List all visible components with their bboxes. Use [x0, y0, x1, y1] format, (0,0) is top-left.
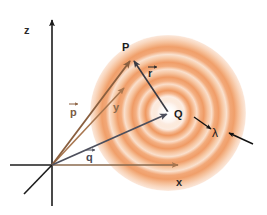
p-vector-label: p	[70, 106, 77, 118]
y-axis-label: y	[113, 101, 120, 113]
point-markers	[166, 111, 169, 114]
charge-marker-Q	[166, 111, 169, 114]
z-axis-label: z	[24, 24, 30, 36]
diagram-canvas: z x y P Q p q r λ	[0, 0, 267, 215]
x-axis-label: x	[176, 176, 183, 188]
point-P-label: P	[122, 41, 129, 53]
q-vector-label: q	[86, 151, 93, 163]
physics-diagram-figure: z x y P Q p q r λ	[0, 0, 267, 215]
wavelength-lambda-label: λ	[212, 126, 218, 140]
source-charge-Q-label: Q	[174, 108, 183, 120]
r-vector-label: r	[148, 67, 153, 79]
